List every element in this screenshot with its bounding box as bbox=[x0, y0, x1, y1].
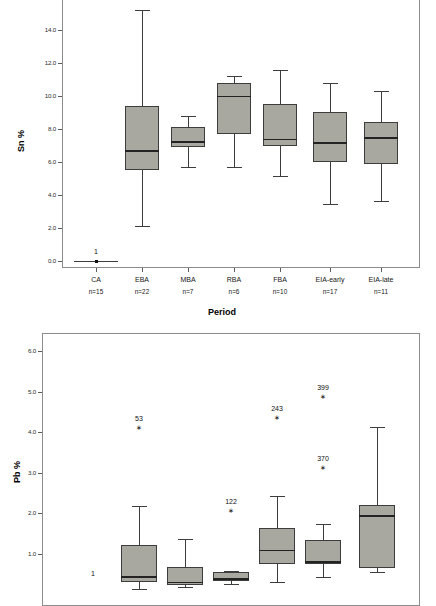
top-whisker-cap-lower bbox=[323, 204, 338, 205]
bottom-whisker-cap-upper bbox=[370, 427, 385, 428]
bottom-box[interactable] bbox=[359, 505, 395, 568]
bottom-whisker-upper bbox=[139, 506, 140, 545]
top-outlier-marker bbox=[95, 260, 98, 263]
bottom-y-tick bbox=[38, 554, 42, 555]
top-y-axis-title: Sn % bbox=[16, 130, 26, 152]
bottom-outlier-label: 243 bbox=[261, 405, 293, 412]
top-y-tick bbox=[58, 162, 62, 163]
top-x-tick bbox=[188, 268, 189, 272]
bottom-whisker-cap-lower bbox=[316, 577, 331, 578]
bottom-y-tick bbox=[38, 432, 42, 433]
top-y-tick bbox=[58, 129, 62, 130]
bottom-whisker-upper bbox=[377, 427, 378, 505]
top-x-tick bbox=[234, 268, 235, 272]
top-box[interactable] bbox=[171, 127, 205, 147]
top-box[interactable] bbox=[125, 106, 159, 170]
bottom-y-tick-label: 4.0 bbox=[6, 428, 36, 435]
bottom-whisker-upper bbox=[277, 496, 278, 528]
bottom-median-line bbox=[167, 582, 203, 583]
bottom-y-tick-label: 2.0 bbox=[6, 509, 36, 516]
top-y-tick-label: 8.0 bbox=[24, 125, 56, 132]
bottom-box[interactable] bbox=[213, 572, 249, 581]
bottom-median-line bbox=[259, 550, 295, 551]
bottom-whisker-cap-lower bbox=[224, 584, 239, 585]
top-y-tick bbox=[58, 195, 62, 196]
bottom-boxplot-panel: Pb % 1.02.03.04.05.06.0 153∗122∗243∗399∗… bbox=[0, 320, 436, 586]
top-y-tick-label: 12.0 bbox=[24, 59, 56, 66]
top-median-line bbox=[364, 137, 398, 138]
top-whisker-cap-lower bbox=[135, 226, 150, 227]
top-whisker-cap-upper bbox=[323, 83, 338, 84]
bottom-box[interactable] bbox=[305, 540, 341, 564]
top-outlier-label: 1 bbox=[82, 248, 110, 255]
bottom-outlier-marker: ∗ bbox=[318, 393, 328, 400]
top-whisker-upper bbox=[280, 70, 281, 104]
bottom-whisker-upper bbox=[323, 524, 324, 539]
top-x-tick bbox=[96, 268, 97, 272]
top-whisker-cap-upper bbox=[181, 116, 196, 117]
top-boxplot-panel: Sn % 0.02.04.06.08.010.012.014.0 1 CAn=1… bbox=[0, 0, 436, 320]
bottom-outlier-marker: ∗ bbox=[134, 424, 144, 431]
top-median-line bbox=[171, 141, 205, 142]
top-whisker-lower bbox=[381, 164, 382, 200]
top-box[interactable] bbox=[217, 83, 251, 134]
bottom-whisker-lower bbox=[139, 582, 140, 589]
bottom-whisker-cap-upper bbox=[178, 539, 193, 540]
bottom-outlier-label: 399 bbox=[307, 384, 339, 391]
top-median-line bbox=[125, 150, 159, 151]
bottom-y-tick bbox=[38, 351, 42, 352]
top-y-tick-label: 0.0 bbox=[24, 257, 56, 264]
bottom-whisker-lower bbox=[277, 564, 278, 582]
bottom-y-tick-label: 1.0 bbox=[6, 550, 36, 557]
bottom-y-tick bbox=[38, 473, 42, 474]
top-whisker-lower bbox=[280, 146, 281, 176]
top-x-tick bbox=[142, 268, 143, 272]
top-y-tick bbox=[58, 96, 62, 97]
top-x-tick bbox=[381, 268, 382, 272]
bottom-median-line bbox=[121, 576, 157, 577]
top-whisker-cap-upper bbox=[227, 76, 242, 77]
bottom-y-tick bbox=[38, 392, 42, 393]
top-y-tick-label: 14.0 bbox=[24, 26, 56, 33]
bottom-median-line bbox=[359, 515, 395, 516]
top-x-tick bbox=[280, 268, 281, 272]
top-x-axis-title: Period bbox=[208, 307, 236, 317]
bottom-outlier-label: 1 bbox=[77, 570, 109, 577]
top-whisker-cap-upper bbox=[135, 10, 150, 11]
bottom-whisker-cap-upper bbox=[270, 496, 285, 497]
bottom-whisker-cap-upper bbox=[132, 506, 147, 507]
top-whisker-upper bbox=[330, 83, 331, 112]
bottom-outlier-marker: ∗ bbox=[272, 414, 282, 421]
bottom-whisker-lower bbox=[323, 564, 324, 577]
bottom-outlier-label: 53 bbox=[123, 415, 155, 422]
top-whisker-lower bbox=[234, 134, 235, 167]
top-median-line bbox=[313, 142, 347, 143]
bottom-median-line bbox=[213, 578, 249, 579]
bottom-outlier-marker: ∗ bbox=[226, 507, 236, 514]
top-whisker-cap-lower bbox=[181, 167, 196, 168]
top-whisker-upper bbox=[381, 91, 382, 122]
bottom-whisker-cap-lower bbox=[178, 587, 193, 588]
bottom-y-tick-label: 5.0 bbox=[6, 388, 36, 395]
top-box[interactable] bbox=[313, 112, 347, 162]
top-whisker-cap-lower bbox=[374, 201, 389, 202]
top-y-tick-label: 4.0 bbox=[24, 191, 56, 198]
top-whisker-cap-upper bbox=[273, 70, 288, 71]
top-y-tick bbox=[58, 63, 62, 64]
top-y-tick bbox=[58, 228, 62, 229]
top-x-tick-label: EIA-late bbox=[349, 276, 413, 283]
top-y-tick-label: 10.0 bbox=[24, 92, 56, 99]
top-whisker-lower bbox=[188, 147, 189, 167]
top-box[interactable] bbox=[364, 122, 398, 164]
top-whisker-upper bbox=[142, 10, 143, 106]
bottom-y-tick bbox=[38, 513, 42, 514]
bottom-whisker-cap-lower bbox=[370, 572, 385, 573]
top-x-tick-count: n=11 bbox=[349, 288, 413, 295]
bottom-box[interactable] bbox=[259, 528, 295, 564]
top-whisker-cap-lower bbox=[227, 167, 242, 168]
top-whisker-cap-lower bbox=[273, 176, 288, 177]
bottom-whisker-cap-lower bbox=[132, 589, 147, 590]
top-y-tick-label: 6.0 bbox=[24, 158, 56, 165]
bottom-outlier-label: 122 bbox=[215, 498, 247, 505]
bottom-outlier-label: 370 bbox=[307, 455, 339, 462]
